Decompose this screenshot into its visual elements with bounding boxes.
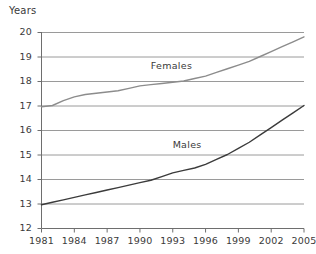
x-tick-label: 2002 — [254, 235, 288, 246]
series-line-females — [42, 37, 305, 107]
y-tick-label: 17 — [8, 100, 32, 111]
y-tick-label: 18 — [8, 75, 32, 86]
x-tick-label: 1999 — [221, 235, 255, 246]
x-tick-label: 2005 — [287, 235, 316, 246]
y-tick-label: 13 — [8, 198, 32, 209]
series-label-males: Males — [173, 139, 202, 150]
gridlines — [42, 33, 305, 205]
x-tick-label: 1984 — [57, 235, 91, 246]
y-tick-label: 16 — [8, 124, 32, 135]
y-tick-label: 15 — [8, 149, 32, 160]
x-tick-label: 1981 — [25, 235, 59, 246]
x-tick-label: 1990 — [123, 235, 157, 246]
y-tick-label: 14 — [8, 173, 32, 184]
y-tick-label: 20 — [8, 26, 32, 37]
x-tick-label: 1996 — [189, 235, 223, 246]
line-chart: Years 201918171615141312 198119841987199… — [0, 0, 316, 254]
y-tick-label: 19 — [8, 51, 32, 62]
x-tick-label: 1987 — [90, 235, 124, 246]
series-label-females: Females — [151, 60, 192, 71]
x-tick-label: 1993 — [156, 235, 190, 246]
y-tick-label: 12 — [8, 222, 32, 233]
plot-area — [0, 0, 316, 254]
